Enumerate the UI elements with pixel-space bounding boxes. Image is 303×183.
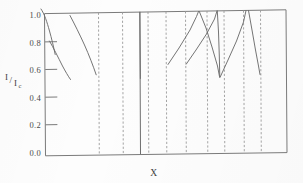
y-tick-label: 0.4 <box>29 93 41 103</box>
data-curve-branch-2 <box>50 41 71 80</box>
frame-top <box>45 10 287 14</box>
vertical-marker-line <box>148 12 149 154</box>
y-tick-label: 1.0 <box>29 10 41 20</box>
y-tick-label: 0.2 <box>29 120 41 130</box>
y-axis-title-slash: / <box>10 75 13 85</box>
data-curve-branch-3 <box>70 16 96 75</box>
chart-svg: 1.0 0.8 0.6 0.4 0.2 0.0 I / I c X <box>0 0 303 183</box>
vertical-marker-line <box>186 11 187 153</box>
vertical-marker-line <box>224 11 225 153</box>
figure-root: 1.0 0.8 0.6 0.4 0.2 0.0 I / I c X <box>0 0 303 183</box>
y-tick-label: 0.6 <box>29 65 41 75</box>
x-axis-title: X <box>150 168 157 178</box>
data-curve-branch-6 <box>199 11 219 76</box>
y-tick-label: 0.8 <box>29 38 41 48</box>
y-axis-title: I / I c <box>5 72 22 89</box>
y-axis-title-denominator: I <box>14 78 17 88</box>
vertical-marker-line <box>261 10 262 153</box>
y-axis-tick-labels: 1.0 0.8 0.6 0.4 0.2 0.0 <box>29 10 41 158</box>
vertical-marker-line <box>166 12 167 154</box>
plot-frame <box>45 10 288 156</box>
y-axis-title-numerator: I <box>5 72 8 82</box>
frame-left <box>45 14 46 156</box>
data-curves <box>41 9 260 80</box>
frame-bottom <box>46 153 288 156</box>
data-curve-branch-7 <box>186 11 217 64</box>
data-curve-branch-5 <box>168 12 199 65</box>
chart-figure: 1.0 0.8 0.6 0.4 0.2 0.0 I / I c X <box>0 0 303 183</box>
y-axis-title-subscript: c <box>19 82 22 89</box>
data-curve-branch-10 <box>249 11 261 75</box>
vertical-marker-lines <box>99 10 262 154</box>
vertical-marker-line <box>99 13 100 155</box>
frame-right <box>286 10 287 153</box>
y-tick-label: 0.0 <box>29 148 41 158</box>
vertical-marker-line <box>123 12 124 154</box>
vertical-marker-line <box>244 11 245 153</box>
data-curve-branch-4 <box>140 12 141 78</box>
